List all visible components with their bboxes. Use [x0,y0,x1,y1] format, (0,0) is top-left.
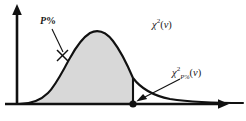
chi-square-figure-root: P% χ2(ν) χ2P%(ν) [0,0,246,121]
curve-label-close-paren: ) [168,19,172,30]
critical-value-label-close-paren: ) [198,67,202,78]
shaded-area-label-percent: % [46,15,56,26]
horizontal-axis-arrowhead [218,99,229,109]
curve-label: χ2(ν) [152,18,172,30]
critical-value-arrowhead [136,94,147,101]
p-percent-leader-line [52,29,63,52]
critical-value-label-subscript: P% [180,73,189,80]
chi-square-plot [0,0,246,121]
critical-value-dot [129,100,136,107]
shaded-area-p-percent [19,31,133,104]
shaded-area-label: P% [40,16,56,26]
critical-value-label: χ2P%(ν) [172,66,201,80]
vertical-axis-arrowhead [12,4,22,15]
